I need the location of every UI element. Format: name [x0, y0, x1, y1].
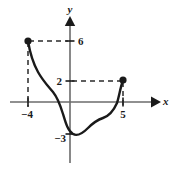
guide-lines-group [28, 41, 123, 107]
x-axis-arrowhead [151, 97, 161, 108]
function-curve-group [28, 41, 123, 135]
tick-marks-group [28, 41, 123, 134]
x-tick-label-neg4: −4 [21, 108, 33, 120]
y-tick-label-neg3: −3 [54, 132, 66, 144]
x-axis-label: x [162, 95, 169, 107]
y-axis-label: y [66, 3, 73, 15]
axes-group [10, 16, 161, 163]
coordinate-plane-plot: y x −4 5 6 2 −3 [0, 0, 171, 169]
right-endpoint-dot [119, 76, 126, 83]
y-tick-label-6: 6 [78, 35, 84, 47]
x-tick-label-5: 5 [120, 108, 126, 120]
graph-figure: y x −4 5 6 2 −3 [0, 0, 171, 169]
function-curve [28, 41, 123, 135]
y-axis-arrowhead [65, 16, 75, 26]
y-tick-label-2: 2 [57, 75, 63, 87]
left-endpoint-dot [24, 37, 31, 44]
